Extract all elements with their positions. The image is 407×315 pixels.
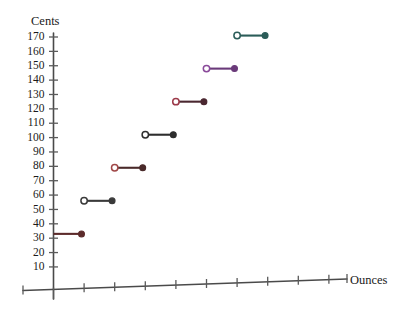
closed-endpoint-dot	[262, 33, 268, 39]
y-tick-label: 80	[33, 159, 45, 171]
chart-svg: 1020304050607080901001101201301401501601…	[0, 0, 407, 315]
y-tick-label: 140	[27, 73, 45, 85]
open-endpoint-dot	[142, 132, 148, 138]
x-axis-title: Ounces	[350, 273, 388, 287]
y-tick-label: 20	[33, 246, 45, 258]
y-tick-label: 130	[27, 88, 45, 100]
step-function-chart: 1020304050607080901001101201301401501601…	[0, 0, 407, 315]
y-tick-label: 110	[28, 116, 45, 128]
open-endpoint-dot	[173, 98, 179, 104]
y-tick-label: 60	[33, 188, 45, 200]
open-endpoint-dot	[234, 32, 240, 38]
y-tick-label: 90	[33, 145, 45, 157]
closed-endpoint-dot	[201, 99, 207, 105]
open-endpoint-dot	[81, 198, 87, 204]
step-segments-group	[54, 32, 269, 236]
y-tick-label: 150	[27, 59, 45, 71]
y-tick-label: 10	[33, 260, 45, 272]
x-axis-ticks	[23, 274, 347, 299]
closed-endpoint-dot	[79, 231, 85, 237]
open-endpoint-dot	[203, 65, 209, 71]
y-axis-tick-labels: 1020304050607080901001101201301401501601…	[27, 30, 45, 272]
closed-endpoint-dot	[109, 198, 115, 204]
y-tick-label: 40	[33, 217, 45, 229]
y-tick-label: 70	[33, 174, 45, 186]
closed-endpoint-dot	[232, 66, 238, 72]
y-tick-label: 170	[27, 30, 45, 42]
y-axis-title: Cents	[31, 14, 60, 28]
closed-endpoint-dot	[140, 165, 146, 171]
closed-endpoint-dot	[170, 132, 176, 138]
y-tick-label: 50	[33, 203, 45, 215]
y-tick-label: 120	[27, 102, 45, 114]
y-tick-label: 100	[27, 131, 45, 143]
y-tick-label: 160	[27, 45, 45, 57]
open-endpoint-dot	[112, 165, 118, 171]
y-tick-label: 30	[33, 231, 45, 243]
